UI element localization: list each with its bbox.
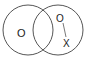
- right-o-label: O: [56, 13, 64, 24]
- left-o-label: O: [17, 27, 26, 39]
- venn-diagram: O O X: [0, 0, 86, 61]
- connector-line: [63, 23, 66, 37]
- right-x-label: X: [63, 38, 70, 49]
- left-circle: [3, 5, 53, 55]
